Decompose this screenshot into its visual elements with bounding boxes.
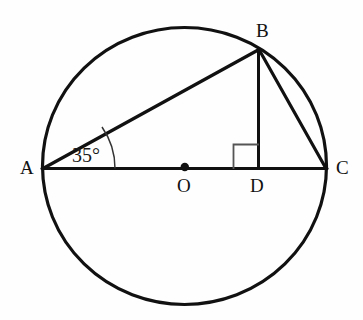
vertex-label-c: C bbox=[336, 158, 349, 177]
vertex-label-a: A bbox=[20, 158, 34, 177]
angle-measure-label-a: 35° bbox=[72, 145, 100, 165]
geometry-figure: A B C O D 35° bbox=[0, 0, 363, 320]
vertex-label-d: D bbox=[250, 176, 264, 195]
segment-bc bbox=[259, 50, 326, 169]
vertex-label-o: O bbox=[177, 176, 191, 195]
geometry-canvas bbox=[0, 0, 363, 320]
center-dot-o bbox=[181, 163, 189, 171]
vertex-label-b: B bbox=[256, 21, 269, 40]
right-angle-marker-d bbox=[234, 145, 259, 169]
